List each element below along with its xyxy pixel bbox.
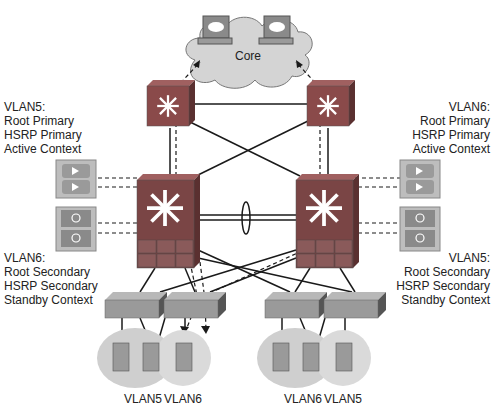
annotation-line: HSRP Primary: [412, 128, 490, 142]
annotation-line: Root Primary: [412, 114, 490, 128]
core-workstation-left: [198, 16, 232, 44]
annotation-line: VLAN5:: [4, 100, 82, 114]
vlan-label-left-b: VLAN6: [164, 392, 202, 406]
annotation-line: Active Context: [4, 142, 82, 156]
firewall-left: [56, 207, 96, 251]
vlan-label-right-b: VLAN5: [324, 392, 362, 406]
vlan-label-left-a: VLAN5: [124, 392, 162, 406]
core-switch-right: [307, 80, 355, 126]
vlan-label-right-a: VLAN6: [284, 392, 322, 406]
port-channel-ellipse: [242, 202, 250, 234]
annotation-line: Root Primary: [4, 114, 82, 128]
annotation-line: VLAN6:: [412, 100, 490, 114]
core-workstation-right: [259, 16, 293, 44]
left-bottom-annotation: VLAN6: Root Secondary HSRP Secondary Sta…: [4, 251, 98, 307]
annotation-line: VLAN5:: [396, 251, 490, 265]
annotation-line: Root Secondary: [396, 265, 490, 279]
load-balancer-left: [56, 160, 96, 198]
core-label: Core: [235, 49, 261, 63]
annotation-line: HSRP Primary: [4, 128, 82, 142]
aggregation-switch-right: [296, 174, 359, 268]
annotation-line: Standby Context: [396, 293, 490, 307]
servers: [113, 343, 352, 371]
left-top-annotation: VLAN5: Root Primary HSRP Primary Active …: [4, 100, 82, 156]
annotation-line: HSRP Secondary: [396, 279, 490, 293]
annotation-line: VLAN6:: [4, 251, 98, 265]
right-bottom-annotation: VLAN5: Root Secondary HSRP Secondary Sta…: [396, 251, 490, 307]
annotation-line: Standby Context: [4, 293, 98, 307]
firewall-right: [400, 207, 440, 251]
annotation-line: HSRP Secondary: [4, 279, 98, 293]
access-switches: [105, 292, 386, 318]
right-top-annotation: VLAN6: Root Primary HSRP Primary Active …: [412, 100, 490, 156]
aggregation-switch-left: [137, 174, 200, 268]
core-switch-left: [147, 80, 195, 126]
annotation-line: Active Context: [412, 142, 490, 156]
annotation-line: Root Secondary: [4, 265, 98, 279]
load-balancer-right: [400, 160, 440, 198]
